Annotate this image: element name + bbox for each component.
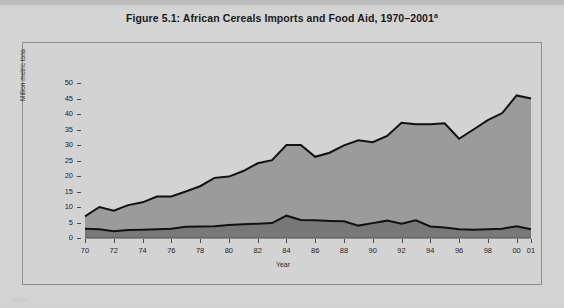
x-tick-label: 74 [134,246,152,255]
y-tick-mark [77,161,81,162]
x-tick-label: 96 [450,246,468,255]
x-tick-label: 80 [220,246,238,255]
x-tick-label: 82 [249,246,267,255]
y-tick-label: 45 [53,94,73,103]
x-tick-label: 84 [277,246,295,255]
x-tick-label: 72 [105,246,123,255]
x-tick-label: 92 [393,246,411,255]
area-commercial-imports [85,95,531,231]
y-tick-mark [77,238,81,239]
figure-title-text: Figure 5.1: African Cereals Imports and … [126,12,434,24]
x-tick-mark [258,239,259,243]
y-tick-label: 5 [53,218,73,227]
y-tick-mark [77,192,81,193]
figure-title: Figure 5.1: African Cereals Imports and … [0,12,564,24]
page-top-edge [0,0,564,5]
note-fragment: Note: [12,296,29,303]
x-tick-mark [517,239,518,243]
y-tick-label: 40 [53,109,73,118]
x-tick-label: 98 [479,246,497,255]
x-tick-mark [344,239,345,243]
x-tick-mark [315,239,316,243]
x-tick-mark [229,239,230,243]
figure-page: Figure 5.1: African Cereals Imports and … [0,0,564,308]
y-tick-mark [77,176,81,177]
x-tick-mark [373,239,374,243]
x-tick-label: 70 [76,246,94,255]
y-tick-mark [77,99,81,100]
y-tick-label: 0 [53,233,73,242]
y-axis-title: Million metric tons [19,15,26,135]
y-tick-label: 10 [53,202,73,211]
x-tick-mark [402,239,403,243]
x-tick-mark [85,239,86,243]
chart-plot-area: Million metric tons Year 051015202530354… [23,43,543,286]
x-tick-label: 90 [364,246,382,255]
y-tick-label: 15 [53,187,73,196]
x-tick-label: 78 [191,246,209,255]
y-tick-mark [77,130,81,131]
x-tick-label: 88 [335,246,353,255]
y-tick-mark [77,223,81,224]
x-tick-mark [488,239,489,243]
x-tick-mark [200,239,201,243]
y-tick-label: 25 [53,156,73,165]
x-tick-mark [171,239,172,243]
y-tick-mark [77,114,81,115]
y-tick-label: 35 [53,125,73,134]
x-tick-mark [286,239,287,243]
y-tick-mark [77,145,81,146]
x-tick-mark [459,239,460,243]
y-tick-label: 50 [53,78,73,87]
x-tick-label: 94 [421,246,439,255]
x-tick-mark [531,239,532,243]
x-tick-label: 01 [522,246,540,255]
y-tick-mark [77,207,81,208]
x-tick-mark [114,239,115,243]
y-tick-mark [77,83,81,84]
x-tick-mark [143,239,144,243]
chart-frame: Million metric tons Year 051015202530354… [22,42,542,285]
x-tick-mark [430,239,431,243]
x-axis-title: Year [23,261,543,268]
y-tick-label: 30 [53,140,73,149]
x-tick-label: 76 [162,246,180,255]
x-tick-label: 86 [306,246,324,255]
y-tick-label: 20 [53,171,73,180]
figure-title-footnote-marker: a [434,12,438,19]
